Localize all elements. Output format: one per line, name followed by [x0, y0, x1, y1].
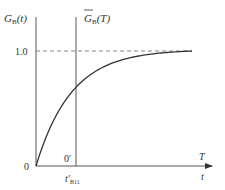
- x-axis-label-lower: t: [201, 171, 204, 182]
- reliability-diagram: GB(t) GB(T) 1.0 0 0′ t′B11 T t: [0, 0, 225, 190]
- x-axis-label-upper: T: [199, 151, 206, 162]
- y-axis-label: GB(t): [4, 12, 27, 26]
- y2-axis-label: GB(T): [84, 12, 110, 26]
- origin2-label: 0′: [64, 153, 71, 164]
- origin-label: 0: [24, 161, 29, 172]
- x2-tick-label: t′B11: [65, 173, 80, 185]
- ytick-label: 1.0: [15, 46, 28, 57]
- reliability-curve: [36, 51, 192, 166]
